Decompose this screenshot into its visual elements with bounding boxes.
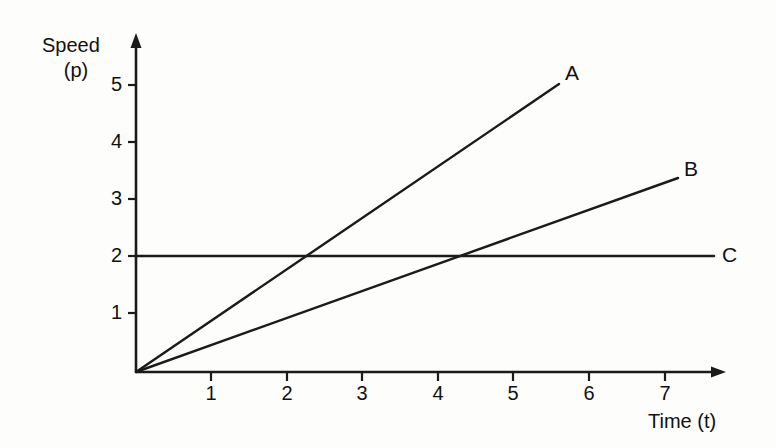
x-tick-label-7: 7 xyxy=(659,382,670,404)
x-tick-label-6: 6 xyxy=(583,382,594,404)
series-group: A B C xyxy=(136,61,737,372)
x-tick-label-5: 5 xyxy=(507,382,518,404)
series-label-b: B xyxy=(684,157,698,180)
x-tick-label-3: 3 xyxy=(356,382,367,404)
y-axis-arrow-icon xyxy=(131,33,142,48)
y-axis-title-line2: (p) xyxy=(64,59,88,81)
x-axis-title: Time (t) xyxy=(648,410,716,432)
series-line-b xyxy=(136,178,678,372)
y-tick-label-2: 2 xyxy=(111,244,122,266)
x-axis-group: 1 2 3 4 5 6 7 Time (t) xyxy=(136,367,726,433)
x-tick-label-4: 4 xyxy=(432,382,443,404)
speed-time-line-chart: 1 2 3 4 5 Speed (p) 1 2 3 4 5 6 7 xyxy=(0,0,776,448)
series-label-a: A xyxy=(565,61,579,84)
y-tick-label-3: 3 xyxy=(111,187,122,209)
x-tick-label-1: 1 xyxy=(205,382,216,404)
y-tick-label-5: 5 xyxy=(111,73,122,95)
y-tick-label-1: 1 xyxy=(111,301,122,323)
y-axis-group: 1 2 3 4 5 Speed (p) xyxy=(42,33,142,372)
x-tick-label-2: 2 xyxy=(281,382,292,404)
y-tick-label-4: 4 xyxy=(111,130,122,152)
x-axis-arrow-icon xyxy=(711,367,726,378)
series-line-a xyxy=(136,84,559,372)
series-label-c: C xyxy=(722,243,737,266)
chart-canvas: 1 2 3 4 5 Speed (p) 1 2 3 4 5 6 7 xyxy=(0,0,776,448)
y-axis-title-line1: Speed xyxy=(42,34,100,56)
